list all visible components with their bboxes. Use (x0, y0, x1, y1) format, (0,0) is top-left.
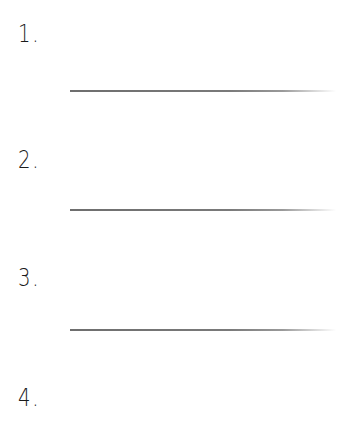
answer-line-2 (70, 209, 336, 211)
answer-line-3 (70, 329, 336, 331)
item-number-4: 4. (18, 386, 40, 410)
item-number-3: 3. (18, 266, 40, 290)
answer-line-1 (70, 90, 336, 92)
item-number-2: 2. (18, 148, 40, 172)
item-number-1: 1. (18, 22, 40, 46)
